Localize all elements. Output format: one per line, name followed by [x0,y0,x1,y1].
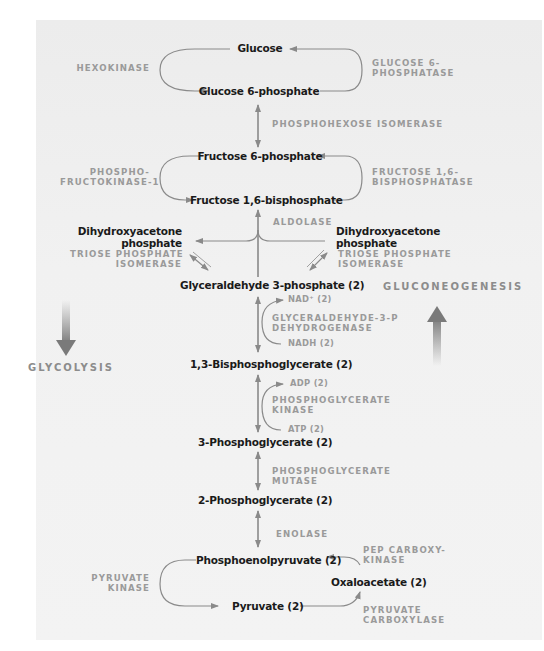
enzyme-hexokinase: HEXOKINASE [60,64,150,74]
enzyme-pyruvate-carboxylase: PYRUVATE CARBOXYLASE [363,606,445,626]
compound-dhap-left: Dihydroxyacetone phosphate [70,225,182,249]
glycolysis-arrow-icon [56,300,76,356]
compound-glucose: Glucose [210,42,310,54]
enzyme-glyceraldehyde-3-p-dehydrogenase: GLYCERALDEHYDE-3-P DEHYDROGENASE [272,314,399,334]
label-gluconeogenesis: GLUCONEOGENESIS [383,281,523,293]
enzyme-aldolase: ALDOLASE [273,218,333,228]
compound-glucose-6-phosphate: Glucose 6-phosphate [198,85,320,97]
compound-pyruvate: Pyruvate (2) [232,600,304,612]
enzyme-fructose-1-6-bisphosphatase: FRUCTOSE 1,6- BISPHOSPHATASE [372,168,474,188]
cofactor-adp: ADP (2) [290,379,328,389]
compound-fructose-6-phosphate: Fructose 6-phosphate [195,150,325,162]
enzyme-phosphoglycerate-mutase: PHOSPHOGLYCERATE MUTASE [272,467,391,487]
enzyme-phosphohexose-isomerase: PHOSPHOHEXOSE ISOMERASE [272,120,443,130]
compound-oxaloacetate: Oxaloacetate (2) [331,576,427,588]
enzyme-triose-phosphate-isomerase-right: TRIOSE PHOSPHATE ISOMERASE [338,250,452,270]
enzyme-phosphofructokinase-1: PHOSPHO- FRUCTOKINASE-1 [60,168,150,188]
enzyme-triose-phosphate-isomerase-left: TRIOSE PHOSPHATE ISOMERASE [70,250,182,270]
enzyme-pyruvate-kinase: PYRUVATE KINASE [60,574,150,594]
cofactor-nad: NAD⁺ (2) [288,295,332,305]
cofactor-atp: ATP (2) [288,425,324,435]
compound-2-phosphoglycerate: 2-Phosphoglycerate (2) [198,494,320,506]
enzyme-glucose-6-phosphatase: GLUCOSE 6- PHOSPHATASE [372,59,454,79]
cofactor-nadh: NADH (2) [288,339,334,349]
gluconeogenesis-arrow-icon [427,306,447,366]
compound-glyceraldehyde-3-phosphate: Glyceraldehyde 3-phosphate (2) [180,279,340,291]
compound-dhap-right: Dihydroxyacetone phosphate [336,225,440,249]
compound-3-phosphoglycerate: 3-Phosphoglycerate (2) [198,436,320,448]
enzyme-enolase: ENOLASE [276,530,328,540]
label-glycolysis: GLYCOLYSIS [28,362,114,374]
compound-fructose-1-6-bisphosphate: Fructose 1,6-bisphosphate [190,194,335,206]
compound-phosphoenolpyruvate: Phosphoenolpyruvate (2) [196,554,326,566]
enzyme-pep-carboxykinase: PEP CARBOXY- KINASE [363,546,446,566]
compound-1-3-bisphosphoglycerate: 1,3-Bisphosphoglycerate (2) [190,358,330,370]
enzyme-phosphoglycerate-kinase: PHOSPHOGLYCERATE KINASE [272,396,391,416]
